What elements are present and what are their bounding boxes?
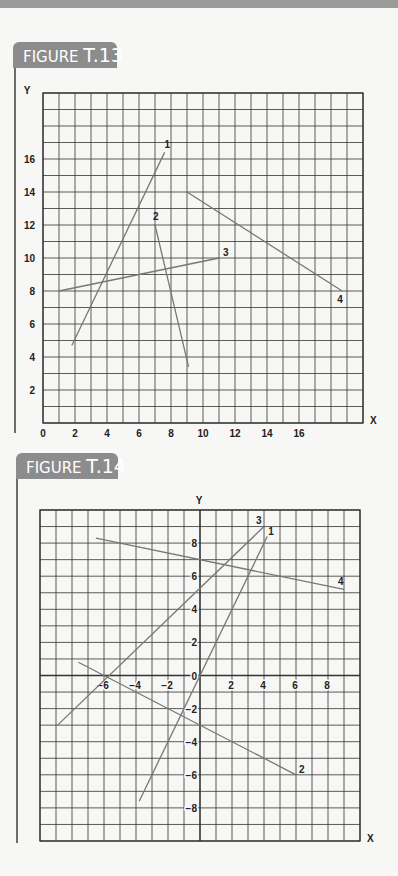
series-line-4 xyxy=(96,538,344,589)
x-tick-label: 6 xyxy=(292,680,298,691)
x-tick-label: 4 xyxy=(104,428,110,439)
y-tick-label: −4 xyxy=(186,737,198,748)
charts-canvas: 0246810121416246810121416XY1234 −6−4−224… xyxy=(0,0,398,876)
y-tick-label: 8 xyxy=(29,286,35,297)
x-tick-label: 10 xyxy=(197,428,209,439)
y-tick-label: 2 xyxy=(191,637,197,648)
y-tick-label: 14 xyxy=(24,187,36,198)
y-tick-label: 16 xyxy=(24,154,36,165)
y-axis-label: Y xyxy=(196,495,203,506)
y-tick-label: 6 xyxy=(29,319,35,330)
series-label-2: 2 xyxy=(299,764,305,775)
x-tick-label: 8 xyxy=(168,428,174,439)
y-tick-label: −8 xyxy=(186,803,198,814)
x-tick-label: 2 xyxy=(72,428,78,439)
x-axis-label: X xyxy=(367,833,374,844)
x-tick-label: 16 xyxy=(293,428,305,439)
y-tick-label: 4 xyxy=(191,604,197,615)
series-label-3: 3 xyxy=(223,247,229,258)
x-tick-label: 2 xyxy=(228,680,234,691)
y-tick-label: 6 xyxy=(191,571,197,582)
figure-t14-chart: −6−4−2246886420−2−4−6−8XY1234 xyxy=(40,495,374,844)
x-axis-label: X xyxy=(370,415,377,426)
y-tick-label: 2 xyxy=(29,385,35,396)
series-label-1: 1 xyxy=(268,526,274,537)
series-line-2 xyxy=(155,225,189,367)
series-label-1: 1 xyxy=(165,139,171,150)
x-tick-label: 0 xyxy=(40,428,46,439)
figure-t13-chart: 0246810121416246810121416XY1234 xyxy=(24,85,377,439)
y-tick-label: −2 xyxy=(186,704,198,715)
y-tick-label: 12 xyxy=(24,220,36,231)
x-tick-label: 12 xyxy=(229,428,241,439)
x-tick-label: 6 xyxy=(136,428,142,439)
series-label-3: 3 xyxy=(256,515,262,526)
y-tick-label: −6 xyxy=(186,770,198,781)
y-tick-label: 4 xyxy=(29,352,35,363)
series-label-4: 4 xyxy=(337,294,343,305)
x-tick-label: 14 xyxy=(261,428,273,439)
y-axis-label: Y xyxy=(24,85,31,96)
x-tick-label: −2 xyxy=(161,680,173,691)
y-tick-label: 10 xyxy=(24,253,36,264)
series-line-1 xyxy=(72,152,165,345)
y-tick-label: 0 xyxy=(191,671,197,682)
y-tick-label: 8 xyxy=(191,538,197,549)
x-tick-label: 8 xyxy=(324,680,330,691)
x-tick-label: 4 xyxy=(260,680,266,691)
series-label-2: 2 xyxy=(153,211,159,222)
series-label-4: 4 xyxy=(338,576,344,587)
